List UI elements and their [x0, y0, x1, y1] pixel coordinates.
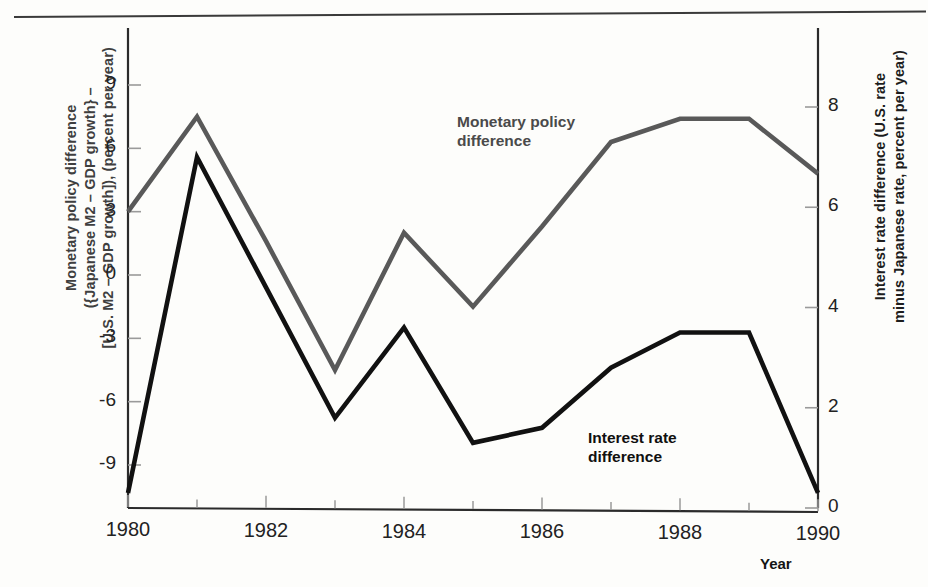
y-axis-right-tick-label: 2	[828, 395, 868, 417]
y-axis-right-tick-label: 0	[828, 495, 868, 517]
y-axis-left-tick-label: 0	[76, 262, 116, 284]
plot-canvas	[0, 0, 928, 587]
y-axis-left-tick-label: 3	[76, 199, 116, 221]
x-axis-tick-label: 1990	[773, 522, 863, 545]
y-axis-right-tick-label: 4	[828, 295, 868, 317]
series-layer	[128, 117, 818, 493]
x-axis-tick-label: 1986	[497, 520, 587, 543]
x-axis-tick-label: 1980	[83, 518, 173, 541]
y-axis-left-tick-label: 9	[76, 72, 116, 94]
y-axis-right-tick-label: 8	[828, 94, 868, 116]
x-axis-tick-label: 1984	[359, 520, 449, 543]
figure-root: Monetary policy difference ({Japanese M2…	[0, 0, 928, 587]
series-line-interest-rate	[128, 157, 818, 493]
y-axis-right-tick-label: 6	[828, 194, 868, 216]
x-axis-tick-label: 1988	[635, 521, 725, 544]
y-axis-left-tick-label: 6	[76, 135, 116, 157]
x-axis-tick-label: 1982	[221, 519, 311, 542]
y-axis-left-tick-label: -9	[76, 452, 116, 474]
y-axis-left-tick-label: -3	[76, 325, 116, 347]
y-axis-left-tick-label: -6	[76, 389, 116, 411]
